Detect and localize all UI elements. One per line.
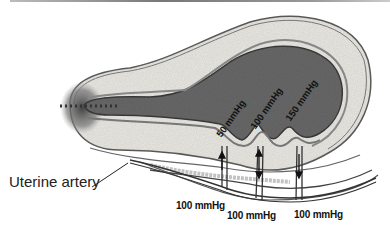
placenta-diagram: Uterine artery 50 mmHg 100 mmHg 150 mmHg… <box>0 0 390 233</box>
arterial-pressure-label-2: 100 mmHg <box>227 210 276 221</box>
arterial-pressure-label-1: 100 mmHg <box>176 200 225 211</box>
uterine-artery-label: Uterine artery <box>9 173 100 190</box>
uterus-illustration <box>0 0 390 233</box>
arterial-pressure-label-3: 100 mmHg <box>294 209 343 220</box>
